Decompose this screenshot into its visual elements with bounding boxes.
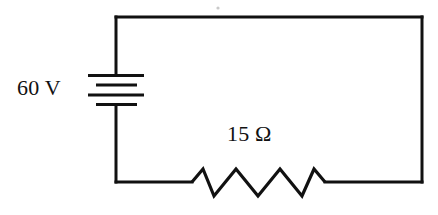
circuit-diagram-canvas: 60 V 15 Ω xyxy=(0,0,438,215)
resistor-resistance-label: 15 Ω xyxy=(227,123,272,145)
battery-voltage-label: 60 V xyxy=(17,77,61,99)
resistor-zigzag xyxy=(192,169,325,196)
circuit-schematic xyxy=(0,0,438,215)
scan-artifact-speck xyxy=(216,6,219,9)
